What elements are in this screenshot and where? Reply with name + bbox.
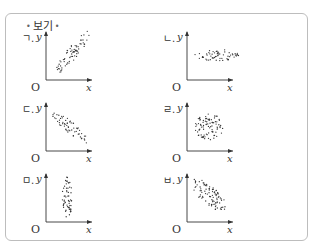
y-arrow-icon — [185, 173, 189, 178]
y-axis-label: y — [35, 102, 42, 113]
y-arrow-icon — [44, 173, 48, 178]
y-axis-label: y — [176, 31, 183, 42]
scatter-dots — [195, 113, 223, 140]
panel-b: ㄴ. yxO — [163, 30, 303, 98]
panel-e: ㅁ. yxO — [22, 172, 162, 240]
y-arrow-icon — [185, 31, 189, 36]
scatter-dots — [62, 177, 72, 218]
origin-label: O — [172, 152, 181, 165]
scatter-dots — [194, 49, 239, 61]
origin-label: O — [172, 223, 181, 236]
origin-label: O — [31, 152, 40, 165]
scatter-plot: yxO — [163, 172, 303, 240]
x-axis-label: x — [227, 224, 233, 235]
x-axis-label: x — [86, 224, 92, 235]
origin-label: O — [31, 223, 40, 236]
scatter-dots — [52, 113, 87, 144]
y-axis-label: y — [35, 173, 42, 184]
y-axis-label: y — [176, 102, 183, 113]
panel-d: ㄹ. yxO — [163, 101, 303, 169]
y-arrow-icon — [44, 31, 48, 36]
y-axis-label: y — [35, 31, 42, 42]
y-arrow-icon — [44, 102, 48, 107]
origin-label: O — [31, 81, 40, 94]
scatter-plot: yxO — [22, 101, 162, 169]
origin-label: O — [172, 81, 181, 94]
scatter-dots — [193, 179, 225, 210]
scatter-plot: yxO — [22, 30, 162, 98]
x-axis-label: x — [86, 82, 92, 93]
x-axis-label: x — [86, 153, 92, 164]
panel-f: ㅂ. yxO — [163, 172, 303, 240]
y-arrow-icon — [185, 102, 189, 107]
scatter-plot: yxO — [22, 172, 162, 240]
panel-a: ㄱ. yxO — [22, 30, 162, 98]
scatter-plot: yxO — [163, 101, 303, 169]
scatter-plot: yxO — [163, 30, 303, 98]
x-axis-label: x — [227, 82, 233, 93]
scatter-dots — [56, 31, 89, 73]
x-axis-label: x — [227, 153, 233, 164]
y-axis-label: y — [176, 173, 183, 184]
panel-c: ㄷ. yxO — [22, 101, 162, 169]
